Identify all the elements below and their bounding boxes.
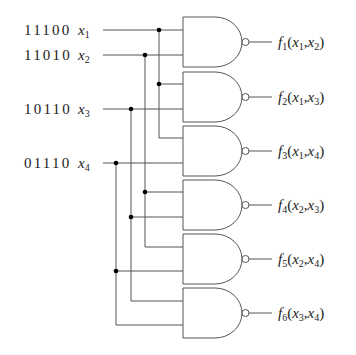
output-labels: f1(x1,x2) f2(x1,x3) f3(x1,x4) f4(x2,x3) … <box>278 34 324 323</box>
input-var-x4: x4 <box>77 155 90 173</box>
nand-gate-body <box>183 234 242 284</box>
nand-gate-5 <box>183 234 272 284</box>
output-label-f2: f2(x1,x3) <box>278 89 324 107</box>
junction-dot <box>129 107 134 112</box>
output-label-f1: f1(x1,x2) <box>278 34 324 52</box>
input-pattern-x3: 10110 <box>24 101 72 117</box>
inversion-bubble <box>242 148 249 155</box>
inversion-bubble <box>242 202 249 209</box>
input-label-x3: 10110 x3 <box>24 101 90 119</box>
junctions <box>114 28 162 274</box>
nand-gate-1 <box>183 17 272 67</box>
junction-dot <box>129 215 134 220</box>
nand-gate-2 <box>183 72 272 122</box>
inversion-bubble <box>242 256 249 263</box>
junction-dot <box>143 190 148 195</box>
logic-circuit-diagram: 11100 x1 11010 x2 10110 x3 01110 x4 <box>0 0 356 355</box>
input-labels: 11100 x1 11010 x2 10110 x3 01110 x4 <box>24 22 90 173</box>
inversion-bubble <box>242 39 249 46</box>
nand-gate-4 <box>183 180 272 230</box>
nand-gate-body <box>183 180 242 230</box>
nand-gate-body <box>183 288 242 338</box>
input-pattern-x1: 11100 <box>24 22 71 38</box>
nand-gate-6 <box>183 288 272 338</box>
inversion-bubble <box>242 94 249 101</box>
junction-dot <box>114 161 119 166</box>
input-pattern-x2: 11010 <box>24 47 72 63</box>
junction-dot <box>157 28 162 33</box>
wires <box>103 30 183 325</box>
wire-x1 <box>103 30 183 138</box>
output-label-f4: f4(x2,x3) <box>278 197 324 215</box>
input-label-x2: 11010 x2 <box>24 47 90 65</box>
input-label-x4: 01110 x4 <box>24 155 90 173</box>
junction-dot <box>114 269 119 274</box>
nand-gate-body <box>183 126 242 176</box>
nand-gate-body <box>183 17 242 67</box>
nand-gate-3 <box>183 126 272 176</box>
output-label-f6: f6(x3,x4) <box>278 305 324 323</box>
junction-dot <box>143 53 148 58</box>
input-pattern-x4: 01110 <box>24 155 71 171</box>
output-label-f3: f3(x1,x4) <box>278 143 324 161</box>
nand-gate-body <box>183 72 242 122</box>
input-label-x1: 11100 x1 <box>24 22 90 40</box>
junction-dot <box>157 82 162 87</box>
input-var-x3: x3 <box>77 101 90 119</box>
inversion-bubble <box>242 310 249 317</box>
input-var-x1: x1 <box>77 22 90 40</box>
input-var-x2: x2 <box>77 47 90 65</box>
output-label-f5: f5(x2,x4) <box>278 251 324 269</box>
